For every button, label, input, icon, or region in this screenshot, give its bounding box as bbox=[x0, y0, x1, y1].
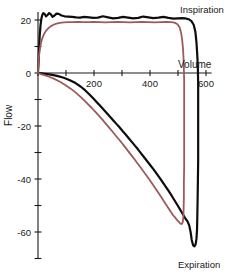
y-tick-label-0: 0 bbox=[26, 68, 31, 79]
flow-axis-title: Flow bbox=[3, 104, 14, 126]
y-tick-label--40: -40 bbox=[17, 174, 31, 185]
inspiration-label: Inspiration bbox=[180, 4, 224, 15]
flow-volume-loop-chart: 200400600 200-20-40-60 InspirationExpira… bbox=[0, 0, 236, 275]
chart-canvas: 200400600 200-20-40-60 InspirationExpira… bbox=[0, 0, 236, 275]
x-tick-label-400: 400 bbox=[142, 78, 158, 89]
axes-group bbox=[38, 12, 212, 258]
x-tick-label-200: 200 bbox=[86, 78, 102, 89]
y-tick-label-20: 20 bbox=[20, 15, 31, 26]
expiration-label: Expiration bbox=[178, 259, 220, 270]
data-curves bbox=[38, 13, 198, 246]
x-tick-label-600: 600 bbox=[198, 78, 214, 89]
curve-maroon-loop bbox=[38, 22, 184, 224]
y-tick-label--60: -60 bbox=[17, 227, 31, 238]
curve-black-loop bbox=[38, 13, 198, 246]
y-tick-label--20: -20 bbox=[17, 121, 31, 132]
volume-axis-title: Volume bbox=[178, 59, 212, 70]
